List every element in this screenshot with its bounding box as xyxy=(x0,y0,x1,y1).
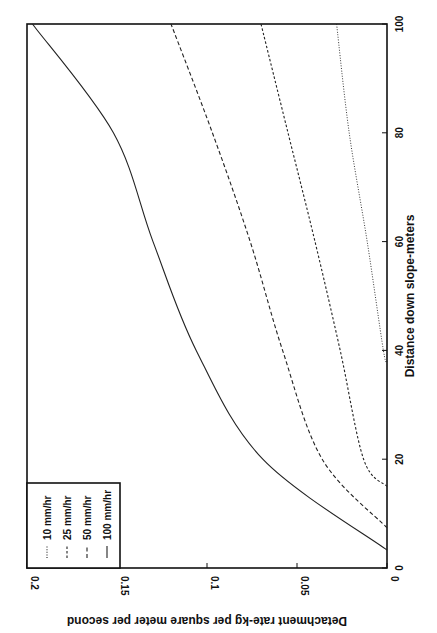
series-lines xyxy=(32,24,387,550)
legend-item-label: 100 mm/hr xyxy=(102,490,113,540)
x-tick-label: 80 xyxy=(394,127,405,139)
legend: 10 mm/hr25 mm/hr50 mm/hr100 mm/hr xyxy=(27,483,120,568)
x-tick-label: 20 xyxy=(394,453,405,465)
series-line-10-mm-hr xyxy=(337,24,387,363)
series-line-50-mm-hr xyxy=(171,24,387,528)
legend-item-label: 10 mm/hr xyxy=(42,495,53,540)
x-axis-label: Distance down slope-meters xyxy=(403,214,417,377)
series-line-100-mm-hr xyxy=(32,24,387,550)
chart: 020406080100 00.050.10.150.2 10 mm/hr25 … xyxy=(0,0,437,633)
y-tick-label: 0 xyxy=(389,576,400,582)
legend-item-label: 25 mm/hr xyxy=(62,495,73,540)
x-tick-label: 0 xyxy=(394,565,405,571)
y-tick-label: 0.2 xyxy=(29,576,40,590)
y-tick-label: 0.15 xyxy=(119,576,130,596)
y-tick-label: 0.1 xyxy=(209,576,220,590)
y-axis-label: Detachment rate-kg per square meter per … xyxy=(67,614,347,628)
legend-item-label: 50 mm/hr xyxy=(82,495,93,540)
x-tick-label: 100 xyxy=(394,15,405,32)
series-line-25-mm-hr xyxy=(261,24,387,486)
x-axis: 020406080100 xyxy=(382,15,405,571)
y-tick-label: 0.05 xyxy=(299,576,310,596)
